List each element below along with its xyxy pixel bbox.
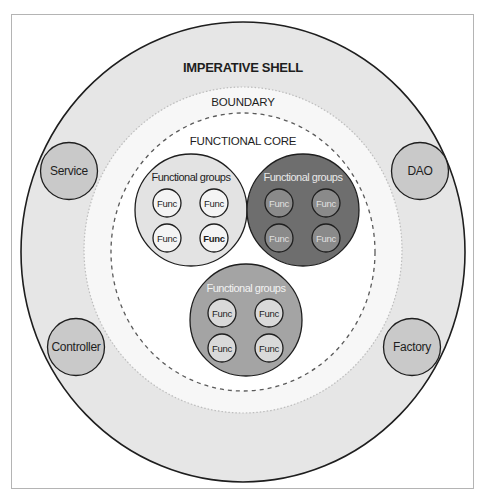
functional-core-label: FUNCTIONAL CORE <box>190 135 297 147</box>
func-label: Func <box>157 233 177 244</box>
func-label: Func <box>316 198 336 209</box>
imperative-shell-label: IMPERATIVE SHELL <box>183 60 303 75</box>
func-label: Func <box>269 233 289 244</box>
func-label: Func <box>259 343 279 354</box>
group-label: Functional groups <box>264 171 344 183</box>
group-label: Functional groups <box>152 171 232 183</box>
func-label: Func <box>259 308 279 319</box>
group-label: Functional groups <box>207 282 287 294</box>
func-label: Func <box>316 233 336 244</box>
satellite-factory: Factory <box>384 319 441 376</box>
func-label: Func <box>212 343 232 354</box>
functional-group-medium: Functional groups Func Func Func Func <box>190 264 302 376</box>
func-label: Func <box>212 308 232 319</box>
func-label: Func <box>204 198 224 209</box>
boundary-label: BOUNDARY <box>211 96 275 108</box>
functional-group-light: Functional groups Func Func Func Func <box>135 154 247 266</box>
satellite-controller: Controller <box>48 319 105 376</box>
satellite-service: Service <box>41 143 98 200</box>
func-label: Func <box>157 198 177 209</box>
func-label: Func <box>269 198 289 209</box>
controller-label: Controller <box>51 340 100 354</box>
factory-label: Factory <box>393 340 431 354</box>
satellite-dao: DAO <box>392 143 449 200</box>
dao-label: DAO <box>407 164 432 178</box>
architecture-diagram: IMPERATIVE SHELL BOUNDARY FUNCTIONAL COR… <box>0 0 484 496</box>
service-label: Service <box>50 164 89 178</box>
functional-group-dark: Functional groups Func Func Func Func <box>247 154 359 266</box>
func-label: Func <box>203 233 225 244</box>
